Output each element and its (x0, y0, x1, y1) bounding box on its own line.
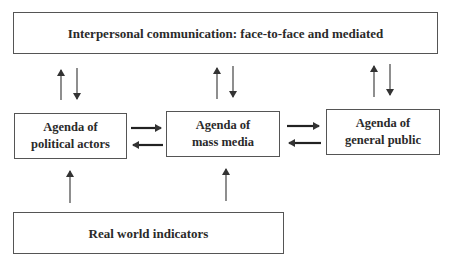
node-label: Agenda of mass media (192, 117, 254, 151)
node-agenda-general-public: Agenda of general public (326, 109, 440, 155)
node-real-world-indicators: Real world indicators (13, 212, 284, 254)
node-interpersonal-communication: Interpersonal communication: face-to-fac… (13, 12, 438, 54)
node-label: Real world indicators (89, 225, 209, 242)
node-label: Agenda of general public (345, 115, 421, 149)
node-label: Agenda of political actors (31, 119, 110, 153)
node-label: Interpersonal communication: face-to-fac… (68, 25, 384, 42)
node-agenda-political-actors: Agenda of political actors (14, 113, 127, 159)
node-agenda-mass-media: Agenda of mass media (166, 111, 280, 157)
